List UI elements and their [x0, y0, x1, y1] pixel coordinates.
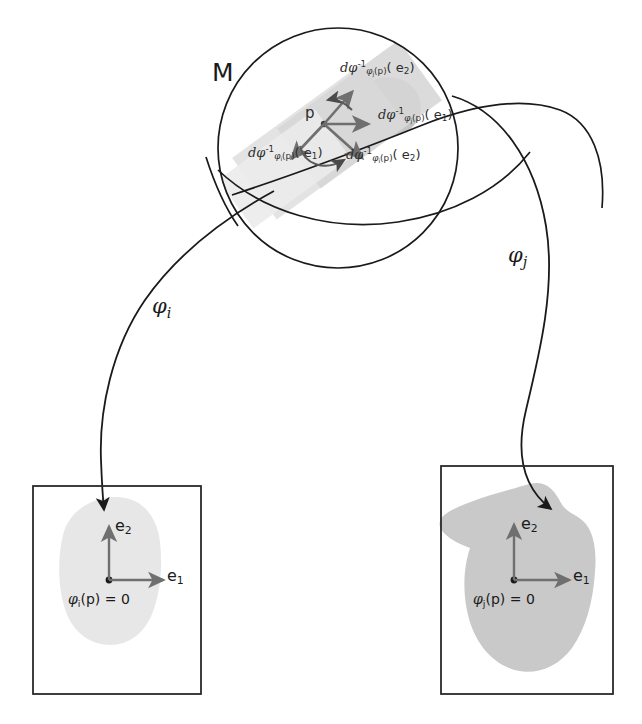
tangent-label-dphi-j-e1: dφ-1φj(p)( e1) [378, 107, 453, 124]
tangent-arg-dphi-j-e2: ( e [387, 60, 404, 75]
tangent-sup-dphi-i-e2: -1 [363, 146, 372, 156]
tangent-sup-dphi-j-e2: -1 [357, 59, 366, 69]
phi-j-mapping-arrow [452, 96, 551, 509]
phi-j-sub: j [523, 254, 527, 270]
point-p-label: p [305, 106, 315, 121]
phi-i-mapping-arrow [101, 191, 274, 510]
phi-i-sub: i [167, 305, 172, 321]
right-chart-e2-label: e2 [521, 516, 538, 535]
tangent-arg-dphi-i-e2: ( e [393, 147, 410, 162]
tangent-prefix-dphi-i-e1: dφ [248, 145, 265, 160]
tangent-arg-dphi-j-e1: ( e [425, 107, 442, 122]
tangent-sub-dphi-i-e2: φi(p) [372, 153, 392, 163]
manifold-label: M [212, 60, 234, 85]
left-chart-origin-label: φi(p) = 0 [68, 592, 130, 609]
tangent-arrow-dphi-j-e2 [324, 92, 352, 124]
manifold-chart-diagram: M p dφ-1φj(p)( e2) dφ-1φj(p)( e1) dφ-1φi… [0, 0, 642, 724]
phi-i-map-label: φi [152, 296, 171, 320]
phi-j-map-label: φj [508, 245, 527, 269]
tangent-label-dphi-i-e2: dφ-1φi(p)( e2) [346, 147, 421, 164]
tangent-prefix-dphi-i-e2: dφ [346, 147, 363, 162]
phi-j-base: φ [508, 243, 523, 267]
tangent-sub-dphi-i-e1: φi(p) [274, 151, 294, 161]
tangent-arg-dphi-i-e1: ( e [295, 145, 312, 160]
tangent-prefix-dphi-j-e1: dφ [378, 107, 395, 122]
tangent-sup-dphi-j-e1: -1 [395, 106, 404, 116]
tangent-label-dphi-j-e2: dφ-1φj(p)( e2) [340, 60, 415, 77]
right-chart-e1-label: e1 [573, 568, 590, 587]
outline-layer [0, 0, 642, 724]
phi-i-base: φ [152, 294, 167, 318]
tangent-prefix-dphi-j-e2: dφ [340, 60, 357, 75]
left-chart-e2-label: e2 [115, 518, 132, 537]
tangent-label-dphi-i-e1: dφ-1φi(p)( e1) [248, 145, 323, 162]
right-chart-origin-label: φj(p) = 0 [473, 592, 535, 609]
left-chart-e1-label: e1 [167, 568, 184, 587]
tangent-sub-dphi-j-e2: φj(p) [366, 66, 386, 76]
tangent-sub-dphi-j-e1: φj(p) [404, 113, 424, 123]
tangent-sup-dphi-i-e1: -1 [265, 144, 274, 154]
